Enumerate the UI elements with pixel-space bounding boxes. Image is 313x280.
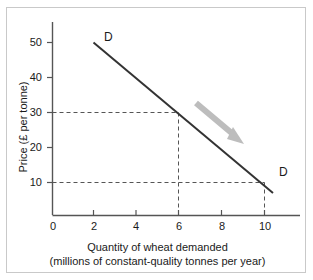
x-axis-title-line1: Quantity of wheat demanded xyxy=(20,240,295,254)
demand-curve-label-bottom: D xyxy=(279,165,288,179)
chart-plot-area xyxy=(0,0,313,280)
x-tick-label-10: 10 xyxy=(253,220,277,232)
y-tick-label-50: 50 xyxy=(18,36,42,48)
x-tick-label-6: 6 xyxy=(167,220,191,232)
x-axis-title: Quantity of wheat demanded (millions of … xyxy=(20,240,295,268)
demand-curve-label-top: D xyxy=(104,30,113,44)
movement-arrow-icon xyxy=(196,103,244,144)
y-axis-title: Price (£ per tonne) xyxy=(17,57,29,197)
x-tick-label-0: 0 xyxy=(41,220,65,232)
demand-curve-line xyxy=(94,43,274,194)
demand-curve-figure: 50 40 30 20 10 0 2 4 6 8 10 Price (£ per… xyxy=(0,0,313,280)
x-tick-label-4: 4 xyxy=(124,220,148,232)
x-tick-label-2: 2 xyxy=(82,220,106,232)
x-tick-label-8: 8 xyxy=(210,220,234,232)
x-axis-title-line2: (millions of constant-quality tonnes per… xyxy=(20,254,295,268)
